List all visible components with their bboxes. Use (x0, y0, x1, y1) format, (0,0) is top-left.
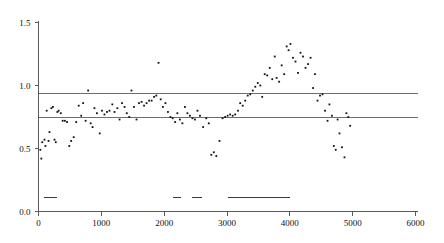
x-tick-label: 4000 (281, 218, 300, 228)
data-point (92, 126, 94, 128)
data-point (237, 110, 239, 112)
data-point (199, 115, 201, 117)
data-point (39, 149, 41, 151)
y-tick-label: 1.0 (19, 81, 31, 91)
data-point (155, 95, 157, 97)
data-point (197, 110, 199, 112)
data-point (229, 114, 231, 116)
data-point (70, 140, 72, 142)
data-point (224, 116, 226, 118)
data-point (261, 96, 263, 98)
data-point (194, 119, 196, 121)
data-point (337, 119, 339, 121)
data-point (184, 106, 186, 108)
data-point (41, 141, 43, 143)
data-point (151, 100, 153, 102)
y-axis-tick-labels: 0.00.51.01.5 (19, 18, 31, 217)
data-point (341, 146, 343, 148)
x-tick-label: 0 (36, 218, 41, 228)
data-point (50, 107, 52, 109)
x-tick-label: 5000 (344, 218, 363, 228)
data-point (187, 112, 189, 114)
data-point (344, 156, 346, 158)
data-point (335, 149, 337, 151)
data-point (172, 117, 174, 119)
plot-canvas: 0.00.51.01.5 0100020003000400050006000 (0, 0, 444, 243)
x-tick-label: 6000 (407, 218, 426, 228)
data-point (312, 87, 314, 89)
data-point (87, 90, 89, 92)
data-point (215, 155, 217, 157)
data-point (232, 115, 234, 117)
data-point (234, 114, 236, 116)
data-point (90, 122, 92, 124)
data-point (310, 57, 312, 59)
data-point (257, 82, 259, 84)
data-point (322, 93, 324, 95)
data-point-series (39, 43, 351, 159)
data-point (339, 132, 341, 134)
data-point (266, 75, 268, 77)
data-point (45, 145, 47, 147)
y-tick-label: 0.5 (19, 144, 31, 154)
data-point (138, 102, 140, 104)
data-point (305, 67, 307, 69)
data-point (314, 73, 316, 75)
data-point (99, 132, 101, 134)
data-point (131, 90, 133, 92)
data-point (269, 67, 271, 69)
data-point (307, 63, 309, 65)
data-point (213, 151, 215, 153)
data-point (148, 100, 150, 102)
data-point (170, 116, 172, 118)
data-point (227, 115, 229, 117)
data-point (158, 62, 160, 64)
data-point (210, 154, 212, 156)
data-point (96, 112, 98, 114)
y-axis-tick-marks (35, 23, 39, 212)
data-point (347, 116, 349, 118)
data-point (327, 120, 329, 122)
data-point (247, 95, 249, 97)
data-point (274, 56, 276, 58)
x-tick-label: 2000 (155, 218, 174, 228)
data-point (133, 106, 135, 108)
data-point (40, 158, 42, 160)
data-point (329, 104, 331, 106)
data-point (345, 112, 347, 114)
data-point (101, 110, 103, 112)
data-point (124, 106, 126, 108)
data-point (136, 119, 138, 121)
x-tick-label: 3000 (218, 218, 237, 228)
data-point (278, 81, 280, 83)
data-point (109, 110, 111, 112)
data-point (55, 141, 57, 143)
scatter-plot-figure: 0.00.51.01.5 0100020003000400050006000 (0, 0, 444, 243)
data-point (111, 104, 113, 106)
data-point (94, 107, 96, 109)
data-point (80, 115, 82, 117)
data-point (160, 98, 162, 100)
data-point (249, 93, 251, 95)
data-point (331, 115, 333, 117)
data-point (292, 57, 294, 59)
reference-lines (39, 93, 418, 118)
data-point (319, 95, 321, 97)
data-point (252, 90, 254, 92)
data-point (60, 112, 62, 114)
data-point (281, 64, 283, 66)
data-point (119, 119, 121, 121)
data-point (141, 101, 143, 103)
data-point (300, 52, 302, 54)
data-point (290, 43, 292, 45)
data-point (317, 100, 319, 102)
data-point (222, 117, 224, 119)
data-point (52, 106, 54, 108)
data-point (68, 145, 70, 147)
data-point (324, 110, 326, 112)
data-point (276, 77, 278, 79)
data-point (192, 117, 194, 119)
data-point (283, 73, 285, 75)
data-point (271, 78, 273, 80)
data-point (143, 105, 145, 107)
